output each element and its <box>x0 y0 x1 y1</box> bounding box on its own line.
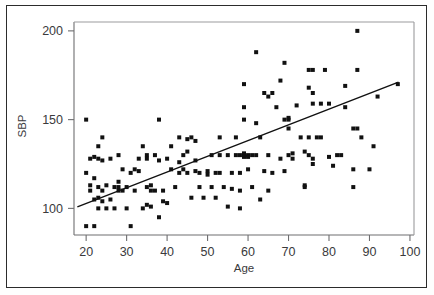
data-point <box>84 171 88 175</box>
data-point <box>88 183 92 187</box>
data-point <box>295 103 299 107</box>
x-tick-label: 50 <box>201 245 215 259</box>
data-point <box>100 158 104 162</box>
x-tick-label: 40 <box>160 245 174 259</box>
data-point <box>206 173 210 177</box>
data-point <box>137 157 141 161</box>
data-point <box>226 153 230 157</box>
x-axis-ticks: 2030405060708090100 <box>79 235 420 259</box>
regression-line <box>78 82 398 206</box>
data-point <box>185 137 189 141</box>
data-point <box>117 185 121 189</box>
data-point <box>250 153 254 157</box>
data-point <box>92 176 96 180</box>
data-point <box>343 105 347 109</box>
axes-group <box>74 22 414 235</box>
y-axis-ticks: 100150200 <box>42 24 74 216</box>
data-point <box>238 171 242 175</box>
data-point <box>327 102 331 106</box>
data-point <box>254 153 258 157</box>
data-point <box>230 187 234 191</box>
data-point <box>319 102 323 106</box>
data-point <box>311 91 315 95</box>
data-point <box>145 153 149 157</box>
x-tick-label: 60 <box>241 245 255 259</box>
data-point <box>100 189 104 193</box>
data-point <box>291 151 295 155</box>
data-point <box>335 153 339 157</box>
data-point <box>278 157 282 161</box>
data-point <box>185 171 189 175</box>
data-point <box>181 153 185 157</box>
data-point <box>355 68 359 72</box>
data-point <box>108 198 112 202</box>
data-point <box>165 201 169 205</box>
data-point <box>129 171 133 175</box>
figure-container: 100150200 2030405060708090100 Age SBP <box>0 0 434 295</box>
data-point <box>112 206 116 210</box>
data-point <box>100 199 104 203</box>
data-point <box>145 157 149 161</box>
data-point <box>157 215 161 219</box>
data-point <box>104 183 108 187</box>
data-point <box>84 224 88 228</box>
data-point <box>234 135 238 139</box>
data-point <box>185 150 189 154</box>
data-point <box>291 157 295 161</box>
data-point <box>315 135 319 139</box>
data-point <box>282 169 286 173</box>
data-point <box>145 185 149 189</box>
data-point <box>311 68 315 72</box>
data-point <box>189 196 193 200</box>
data-point <box>266 189 270 193</box>
data-point <box>262 91 266 95</box>
data-point <box>133 167 137 171</box>
data-point <box>189 135 193 139</box>
data-point <box>238 153 242 157</box>
data-point <box>161 199 165 203</box>
data-point <box>88 157 92 161</box>
data-point <box>141 144 145 148</box>
data-point <box>282 61 286 65</box>
data-point <box>218 171 222 175</box>
data-point <box>359 135 363 139</box>
data-point <box>96 185 100 189</box>
data-point <box>161 189 165 193</box>
data-point <box>319 135 323 139</box>
data-point <box>246 155 250 159</box>
data-point <box>234 153 238 157</box>
data-point <box>323 68 327 72</box>
data-point <box>226 205 230 209</box>
data-point <box>125 206 129 210</box>
data-point <box>311 102 315 106</box>
data-point <box>193 169 197 173</box>
data-point <box>96 144 100 148</box>
data-point <box>222 185 226 189</box>
x-tick-label: 90 <box>363 245 377 259</box>
data-point <box>258 198 262 202</box>
data-point <box>339 153 343 157</box>
data-point <box>282 118 286 122</box>
data-point <box>117 153 121 157</box>
data-point <box>311 162 315 166</box>
y-tick-label: 200 <box>42 24 63 38</box>
data-point <box>242 151 246 155</box>
data-point <box>129 224 133 228</box>
data-point <box>367 167 371 171</box>
chart-canvas: 100150200 2030405060708090100 Age SBP <box>0 0 434 295</box>
data-point <box>177 160 181 164</box>
data-point <box>278 79 282 83</box>
data-point <box>287 127 291 131</box>
data-point <box>250 185 254 189</box>
data-point <box>270 171 274 175</box>
x-tick-label: 30 <box>120 245 134 259</box>
data-point <box>149 205 153 209</box>
data-point <box>153 189 157 193</box>
data-point <box>137 169 141 173</box>
data-point <box>145 203 149 207</box>
data-point <box>169 144 173 148</box>
data-point <box>311 157 315 161</box>
data-point <box>254 50 258 54</box>
data-point <box>287 153 291 157</box>
data-point <box>355 29 359 33</box>
